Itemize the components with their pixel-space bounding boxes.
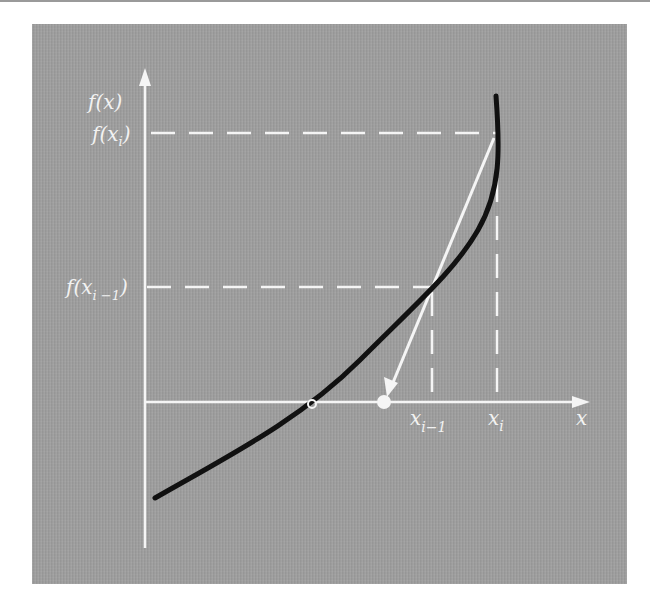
svg-text:f(xi −1): f(xi −1) [64,275,128,303]
secant-arrow [384,138,494,397]
y-axis [139,68,151,548]
svg-text:xi: xi [488,406,504,434]
function-curve [155,96,498,498]
new-estimate-point [377,395,391,409]
dashed-guides [147,133,497,398]
svg-text:xi−1: xi−1 [410,406,446,435]
label-xim1: xi−1 [410,406,446,435]
y-axis-label: f(x) [86,90,122,114]
secant-diagram: f(x) f(xi) f(xi −1) xi−1 xi x [0,0,650,612]
x-axis [145,396,590,408]
y-axis-arrow-icon [139,68,151,86]
svg-text:f(xi): f(xi) [90,122,130,149]
x-axis-label: x [576,406,587,430]
label-f-xi: f(xi) [90,122,130,149]
secant-arrowhead-icon [384,377,398,397]
label-xi: xi [488,406,504,434]
label-f-xim1: f(xi −1) [64,275,128,303]
